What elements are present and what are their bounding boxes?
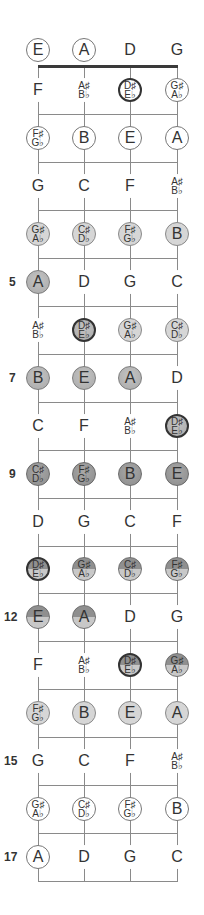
- note-marker: D♯E♭: [26, 557, 50, 581]
- note-label: D: [78, 849, 90, 865]
- note-marker: C♯D♭: [72, 222, 96, 246]
- note-label: C: [78, 178, 90, 194]
- note-marker: G♯A♭: [26, 222, 50, 246]
- fret-line: [38, 737, 178, 738]
- note-marker: F: [165, 510, 189, 534]
- note-label: D: [78, 274, 90, 290]
- note-marker: E: [118, 701, 142, 725]
- note-marker: C: [26, 414, 50, 438]
- note-marker: A: [26, 270, 50, 294]
- note-flat-label: G♭: [124, 234, 137, 243]
- note-marker: G♯A♭: [118, 318, 142, 342]
- fret-line: [38, 546, 178, 547]
- note-marker: F♯G♭: [26, 126, 50, 150]
- note-flat-label: B♭: [171, 761, 183, 770]
- note-label: B: [79, 130, 90, 146]
- note-flat-label: G♭: [124, 809, 137, 818]
- note-label: B: [172, 801, 183, 817]
- note-marker: D♯E♭: [72, 318, 96, 342]
- note-flat-label: G♭: [32, 713, 45, 722]
- note-label: B: [79, 705, 90, 721]
- note-marker: F: [118, 749, 142, 773]
- note-marker: C: [72, 749, 96, 773]
- note-label: A: [79, 609, 90, 625]
- fret-line: [38, 354, 178, 355]
- fret-number: 12: [4, 610, 22, 624]
- fret-number: 7: [9, 371, 22, 385]
- note-label: G: [171, 609, 183, 625]
- note-flat-label: D♭: [171, 330, 183, 339]
- note-marker: F♯G♭: [26, 701, 50, 725]
- note-label: G: [171, 42, 183, 58]
- note-label: A: [33, 274, 44, 290]
- note-flat-label: B♭: [78, 90, 90, 99]
- note-label: E: [33, 609, 44, 625]
- note-label: A: [79, 42, 90, 58]
- note-flat-label: A♭: [171, 90, 183, 99]
- note-marker: G: [118, 270, 142, 294]
- note-label: B: [125, 466, 136, 482]
- note-marker: C: [72, 174, 96, 198]
- note-marker: A♯B♭: [72, 78, 96, 102]
- note-flat-label: A♭: [171, 665, 183, 674]
- note-marker: D: [118, 605, 142, 629]
- note-flat-label: B♭: [32, 330, 44, 339]
- note-label: D: [32, 514, 44, 530]
- fret-number: 15: [4, 754, 22, 768]
- fret-line: [38, 114, 178, 115]
- note-marker: D: [165, 366, 189, 390]
- note-label: A: [172, 130, 183, 146]
- fret-line: [38, 641, 178, 642]
- note-label: E: [125, 130, 136, 146]
- note-marker: A♯B♭: [72, 653, 96, 677]
- note-marker: A: [165, 126, 189, 150]
- note-flat-label: B♭: [78, 665, 90, 674]
- note-flat-label: B♭: [171, 186, 183, 195]
- note-flat-label: G♭: [78, 474, 91, 483]
- fret-line: [38, 785, 178, 786]
- note-label: A: [125, 370, 136, 386]
- note-marker: E: [118, 126, 142, 150]
- note-label: G: [124, 849, 136, 865]
- note-label: E: [79, 370, 90, 386]
- note-marker: F♯G♭: [165, 557, 189, 581]
- note-marker: D♯E♭: [118, 653, 142, 677]
- note-label: G: [78, 514, 90, 530]
- note-label: C: [32, 418, 44, 434]
- note-flat-label: D♭: [78, 809, 90, 818]
- note-marker: B: [165, 222, 189, 246]
- note-marker: A♯B♭: [26, 318, 50, 342]
- note-flat-label: A♭: [32, 234, 44, 243]
- note-flat-label: G♭: [171, 569, 184, 578]
- fret-line: [38, 210, 178, 211]
- note-marker: F♯G♭: [118, 797, 142, 821]
- note-marker: D: [72, 270, 96, 294]
- note-marker: A: [72, 38, 96, 62]
- note-label: F: [33, 82, 43, 98]
- note-marker: A♯B♭: [118, 414, 142, 438]
- note-marker: B: [165, 797, 189, 821]
- note-label: F: [125, 178, 135, 194]
- fret-line: [38, 450, 178, 451]
- note-marker: A: [165, 701, 189, 725]
- note-marker: E: [72, 366, 96, 390]
- note-flat-label: D♭: [78, 234, 90, 243]
- note-flat-label: E♭: [78, 330, 90, 339]
- note-marker: F: [26, 78, 50, 102]
- note-marker: F: [72, 414, 96, 438]
- note-label: B: [33, 370, 44, 386]
- note-label: C: [124, 514, 136, 530]
- note-flat-label: A♭: [124, 330, 136, 339]
- note-label: D: [124, 609, 136, 625]
- note-label: C: [171, 274, 183, 290]
- note-label: E: [125, 705, 136, 721]
- note-marker: F: [118, 174, 142, 198]
- note-label: C: [171, 849, 183, 865]
- fret-line: [38, 162, 178, 163]
- note-marker: D: [26, 510, 50, 534]
- note-marker: D: [118, 38, 142, 62]
- fretboard-diagram: 579121517EADGFA♯B♭D♯E♭G♯A♭F♯G♭BEAGCFA♯B♭…: [0, 0, 204, 915]
- note-marker: B: [26, 366, 50, 390]
- note-label: A: [33, 849, 44, 865]
- fret-line: [38, 881, 178, 882]
